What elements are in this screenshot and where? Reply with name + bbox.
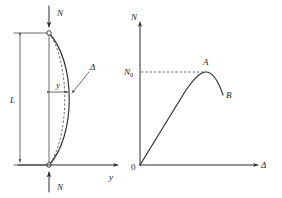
length-label: L [9,95,15,105]
top-load-label: N [56,8,64,18]
right-panel-group: N Δ 0 N0 A B [123,12,266,172]
figure-canvas: N N L y Δ [0,0,282,198]
buckling-figure: N N L y Δ [0,0,282,198]
amplitude-leader-line [72,72,89,93]
chart-x-axis-label: Δ [260,160,266,170]
deflection-label: y [55,80,60,90]
pin-support-top [47,31,52,36]
critical-load-label: N0 [123,67,133,78]
left-panel-group: N N L y Δ [9,6,118,192]
bottom-load-label: N [56,182,64,192]
point-a-label: A [202,57,209,67]
left-axis-label: y [108,172,113,182]
point-b-label: B [226,90,232,100]
buckled-shape-dashed [49,33,65,165]
chart-y-axis-label: N [130,12,138,22]
critical-load-subscript: 0 [130,71,133,78]
chart-origin-label: 0 [131,162,136,172]
load-deflection-curve [140,72,223,165]
buckled-shape-solid [49,33,69,165]
amplitude-label: Δ [89,62,95,72]
